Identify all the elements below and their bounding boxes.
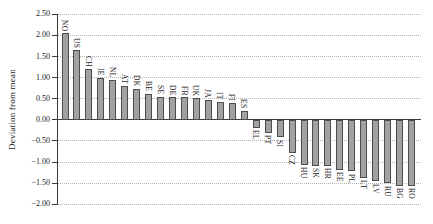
bar-UK [193,98,200,120]
bar-LV [372,120,379,181]
gridline [57,204,421,205]
bar-EE [336,120,343,169]
bar-US [73,50,80,120]
bar-label-IE: IE [95,68,105,76]
bar-HR [324,120,331,166]
y-tick-label: 0.50 [18,94,50,104]
bar-label-PL: PL [346,174,356,183]
bar-label-BE: BE [143,81,153,91]
bar-DE [169,97,176,119]
bar-label-UK: UK [190,85,200,96]
bar-SE [157,97,164,120]
y-tick-label: 2.00 [18,30,50,40]
y-tick-label: 2.50 [18,9,50,19]
bar-label-SE: SE [155,85,165,94]
bar-label-RU: RU [382,186,392,197]
bar-NO [62,33,69,120]
bar-label-JA: JA [202,89,212,98]
bar-label-SI: SI [274,140,284,147]
bar-label-EL: EL [250,130,260,140]
bar-label-FR: FR [179,86,189,96]
bar-label-NL: NL [107,67,117,78]
bar-label-PT: PT [262,135,272,144]
y-tick-label: −2.00 [18,199,50,209]
bar-label-EE: EE [334,172,344,182]
bar-RU [384,120,391,183]
bar-label-DE: DE [167,85,177,96]
y-tick-label: 0.00 [18,115,50,125]
bar-DK [133,89,140,120]
bar-RO [408,120,415,185]
bar-IT [217,102,224,120]
y-tick-label: −1.00 [18,157,50,167]
bar-label-CH: CH [83,56,93,67]
bar-label-RO: RO [406,188,416,199]
bar-JA [205,100,212,120]
bar-label-BG: BG [394,188,404,199]
bar-label-NO: NO [59,20,69,31]
bar-label-FI: FI [226,94,236,101]
bar-CH [85,69,92,120]
bar-chart: Deviation from mean 2.502.001.501.000.50… [0,0,433,224]
bar-FR [181,97,188,119]
bar-label-HU: HU [298,167,308,178]
bar-BE [145,94,152,120]
bar-FI [229,103,236,119]
y-tick-label: −0.50 [18,136,50,146]
bar-PT [265,120,272,133]
bar-EL [253,120,260,128]
bar-label-CZ: CZ [286,155,296,165]
y-axis-line [57,14,58,205]
bar-IE [97,78,104,120]
bar-ES [241,111,248,120]
bar-label-US: US [71,38,81,48]
bar-label-DK: DK [131,75,141,86]
bar-label-SK: SK [310,168,320,178]
bar-label-LV: LV [370,184,380,194]
bar-HU [301,120,308,164]
gridline [57,14,421,15]
bar-PL [348,120,355,171]
bar-label-AT: AT [119,74,129,84]
bar-label-IT: IT [214,92,224,100]
bar-SI [277,120,284,137]
y-tick-label: 1.50 [18,52,50,62]
bar-label-LT: LT [358,180,368,189]
bar-label-HR: HR [322,168,332,179]
bar-SK [312,120,319,166]
bar-NL [109,80,116,120]
bar-CZ [289,120,296,152]
y-tick-label: −1.50 [18,178,50,188]
bar-LT [360,120,367,177]
gridline [57,35,421,36]
bar-label-ES: ES [238,99,248,108]
bar-AT [121,86,128,120]
y-tick-label: 1.00 [18,73,50,83]
bar-BG [396,120,403,185]
gridline [57,56,421,57]
